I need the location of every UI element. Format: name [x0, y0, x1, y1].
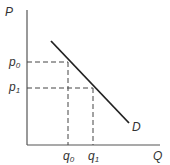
demand-diagram: P Q p0 p1 q0 q1 D [0, 0, 170, 165]
p1-label: p1 [8, 80, 20, 95]
p0-label: p0 [8, 55, 21, 70]
q0-label: q0 [63, 149, 75, 164]
demand-curve [51, 41, 129, 123]
demand-curve-label: D [132, 120, 141, 134]
y-axis-label: P [5, 5, 13, 19]
x-axis-label: Q [153, 149, 162, 163]
q1-label: q1 [88, 149, 99, 164]
